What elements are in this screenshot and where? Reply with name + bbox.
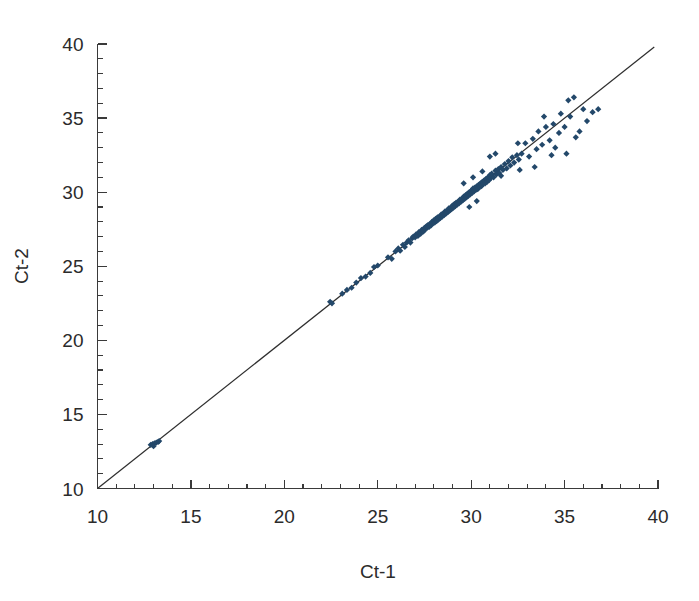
- y-tick-label: 25: [62, 256, 83, 277]
- data-point-marker: [526, 154, 532, 160]
- x-tick-label: 30: [461, 506, 482, 527]
- data-point-marker: [358, 275, 364, 281]
- y-axis-title: Ct-2: [11, 248, 32, 284]
- x-tick-label: 35: [554, 506, 575, 527]
- data-point-marker: [595, 106, 601, 112]
- x-axis-tick-labels: 10152025303540: [87, 506, 669, 527]
- data-point-marker: [487, 154, 493, 160]
- x-tick-label: 25: [367, 506, 388, 527]
- data-point-marker: [576, 128, 582, 134]
- data-point-marker: [548, 152, 554, 158]
- data-point-marker: [541, 114, 547, 120]
- data-point-marker: [492, 151, 498, 157]
- data-point-marker: [552, 145, 558, 151]
- data-point-marker: [470, 174, 476, 180]
- y-tick-label: 15: [62, 404, 83, 425]
- x-tick-label: 20: [274, 506, 295, 527]
- data-point-marker: [565, 97, 571, 103]
- data-point-marker: [533, 146, 539, 152]
- x-tick-label: 40: [647, 506, 668, 527]
- data-point-marker: [558, 111, 564, 117]
- y-tick-label: 30: [62, 182, 83, 203]
- y-axis-tick-labels: 10152025303540: [62, 34, 83, 500]
- data-point-marker: [539, 142, 545, 148]
- x-axis-title: Ct-1: [360, 561, 396, 582]
- data-point-marker: [561, 124, 567, 130]
- data-point-marker: [474, 198, 480, 204]
- x-tick-label: 15: [180, 506, 201, 527]
- data-point-marker: [567, 114, 573, 120]
- y-axis: [98, 44, 107, 489]
- data-points-layer: [148, 94, 602, 449]
- data-point-marker: [556, 130, 562, 136]
- data-point-marker: [573, 134, 579, 140]
- plot-canvas: 10152025303540 10152025303540 Ct-1 Ct-2: [0, 0, 699, 601]
- data-point-marker: [519, 151, 525, 157]
- y-tick-label: 20: [62, 330, 83, 351]
- data-point-marker: [550, 121, 556, 127]
- y-tick-label: 35: [62, 108, 83, 129]
- data-point-marker: [532, 164, 538, 170]
- data-point-marker: [461, 180, 467, 186]
- data-point-marker: [580, 106, 586, 112]
- data-point-marker: [563, 151, 569, 157]
- y-tick-label: 40: [62, 34, 83, 55]
- x-tick-label: 10: [87, 506, 108, 527]
- data-point-marker: [515, 140, 521, 146]
- data-point-marker: [584, 118, 590, 124]
- data-point-marker: [479, 168, 485, 174]
- x-axis: [98, 480, 659, 489]
- data-point-marker: [522, 140, 528, 146]
- scatter-chart: 10152025303540 10152025303540 Ct-1 Ct-2: [0, 0, 699, 601]
- data-point-marker: [535, 128, 541, 134]
- data-point-marker: [517, 167, 523, 173]
- data-point-marker: [547, 137, 553, 143]
- data-point-marker: [590, 109, 596, 115]
- data-point-marker: [543, 124, 549, 130]
- y-tick-label: 10: [62, 479, 83, 500]
- data-point-marker: [571, 94, 577, 100]
- data-point-marker: [466, 204, 472, 210]
